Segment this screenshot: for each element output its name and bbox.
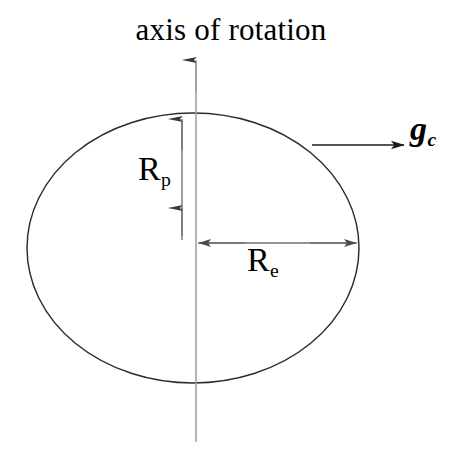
oblate-body-ellipse — [27, 113, 359, 383]
diagram-svg — [0, 0, 462, 461]
equatorial-radius-label: Re — [247, 243, 278, 277]
figure-title: axis of rotation — [0, 14, 462, 45]
gravity-vector-subscript: c — [427, 128, 436, 150]
equatorial-radius-subscript: e — [270, 259, 279, 281]
polar-radius-symbol: R — [138, 150, 161, 187]
equatorial-radius-symbol: R — [247, 241, 270, 278]
figure-canvas: axis of rotation Rp Re gc — [0, 0, 462, 461]
gravity-vector-label: gc — [410, 112, 436, 146]
gravity-vector-symbol: g — [410, 110, 427, 147]
polar-radius-subscript: p — [161, 168, 171, 190]
polar-radius-label: Rp — [138, 152, 171, 186]
